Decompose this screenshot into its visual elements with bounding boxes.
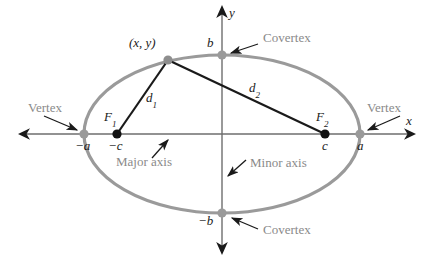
- focus-right-dot: [320, 129, 329, 138]
- point-on-ellipse-dot: [163, 55, 172, 64]
- covertex-bottom-dot: [217, 208, 226, 217]
- covertex-top-leader: [231, 44, 258, 53]
- covertex-top-dot: [217, 50, 226, 59]
- vertex-right-dot: [355, 129, 364, 138]
- minor-axis-leader: [228, 160, 246, 176]
- focus-left-dot: [112, 129, 121, 138]
- ellipse-figure: x y Vertex Vertex Covertex Covertex Majo…: [0, 0, 424, 268]
- ellipse-diagram-canvas: [0, 0, 424, 268]
- vertex-left-dot: [79, 129, 88, 138]
- vertex-left-leader: [44, 116, 77, 130]
- vertex-right-leader: [368, 116, 400, 130]
- major-axis-leader: [152, 140, 168, 158]
- covertex-bottom-leader: [232, 218, 258, 229]
